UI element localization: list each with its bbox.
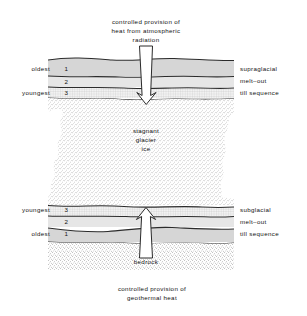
ice-label-line3: ice [142, 145, 151, 152]
subglacial-age-youngest: youngest [22, 206, 50, 213]
supraglacial-unit-number-2: 2 [65, 78, 69, 85]
subglacial-age-oldest: oldest [31, 230, 50, 237]
top-caption-line3: radiation [133, 36, 160, 43]
subglacial-unit-number-3: 3 [65, 206, 69, 213]
bottom-caption-line2: geothermal heat [127, 294, 177, 301]
bedrock-label: bedrock [134, 258, 159, 265]
subglacial-label-line1: subglacial [240, 206, 271, 213]
subglacial-unit-number-2: 2 [65, 218, 69, 225]
subglacial-unit-number-1: 1 [65, 230, 69, 237]
top-caption-line1: controlled provision of [112, 18, 180, 25]
diagram-canvas: stagnant glacier ice controlled provisio… [0, 0, 307, 316]
supraglacial-label-line2: melt–out [240, 77, 267, 84]
supraglacial-age-oldest: oldest [31, 65, 50, 72]
subglacial-label-line3: till sequence [240, 230, 279, 237]
supraglacial-unit-number-3: 3 [65, 89, 69, 96]
supraglacial-unit-number-1: 1 [65, 65, 69, 72]
supraglacial-age-youngest: youngest [22, 89, 50, 96]
ice-label-line1: stagnant [133, 127, 159, 134]
top-caption-line2: heat from atmospheric [112, 27, 181, 34]
bottom-caption-line1: controlled provision of [118, 285, 186, 292]
supraglacial-label-line3: till sequence [240, 89, 279, 96]
ice-label-line2: glacier [136, 136, 156, 143]
glacier-till-diagram: stagnant glacier ice controlled provisio… [0, 0, 307, 316]
subglacial-label-line2: melt–out [240, 218, 267, 225]
supraglacial-label-line1: supraglacial [240, 65, 277, 72]
